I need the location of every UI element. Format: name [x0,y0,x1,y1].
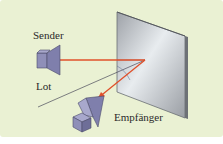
sender-device [37,45,60,75]
mirror [117,12,188,119]
receiver-label: Empfänger [114,112,163,123]
reflection-diagram [0,0,223,144]
lot-label: Lot [36,81,51,92]
sender-label: Sender [33,30,64,41]
receiver-device [73,96,104,132]
